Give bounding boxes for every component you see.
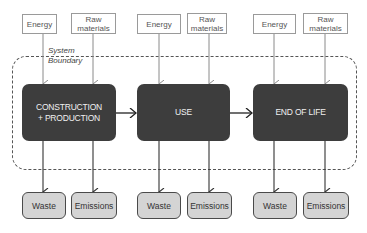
- input-label: Energy: [262, 20, 287, 29]
- input-label-line1: Raw: [85, 15, 101, 24]
- stage-label-line2: + PRODUCTION: [38, 113, 100, 124]
- input-label-line1: Raw: [199, 15, 215, 24]
- stage-label: END OF LIFE: [275, 107, 325, 118]
- output-label: Waste: [263, 201, 287, 211]
- stage-label-line1: CONSTRUCTION: [36, 102, 102, 113]
- stage-end-of-life: END OF LIFE: [253, 84, 348, 141]
- input-raw-materials-construction: Raw materials: [71, 13, 116, 34]
- input-label-line2: materials: [309, 24, 341, 33]
- stage-label: USE: [175, 107, 192, 118]
- input-label: Energy: [27, 20, 52, 29]
- input-label-line2: materials: [77, 24, 109, 33]
- output-label: Waste: [32, 201, 56, 211]
- input-raw-materials-end-of-life: Raw materials: [303, 13, 348, 34]
- stage-use: USE: [137, 84, 230, 141]
- output-waste-end-of-life: Waste: [253, 192, 297, 219]
- output-emissions-end-of-life: Emissions: [303, 192, 349, 219]
- output-label: Emissions: [190, 201, 229, 211]
- output-label: Emissions: [75, 201, 114, 211]
- input-energy-use: Energy: [137, 14, 181, 34]
- output-emissions-construction: Emissions: [71, 192, 117, 219]
- input-raw-materials-use: Raw materials: [187, 13, 227, 34]
- output-waste-construction: Waste: [22, 192, 66, 219]
- input-label-line1: Raw: [317, 15, 333, 24]
- output-label: Waste: [147, 201, 171, 211]
- output-emissions-use: Emissions: [187, 192, 232, 219]
- stage-construction-production: CONSTRUCTION + PRODUCTION: [22, 84, 116, 141]
- output-waste-use: Waste: [137, 192, 181, 219]
- input-energy-end-of-life: Energy: [253, 14, 296, 34]
- input-label-line2: materials: [191, 24, 223, 33]
- output-label: Emissions: [307, 201, 346, 211]
- input-energy-construction: Energy: [22, 14, 57, 34]
- input-label: Energy: [146, 20, 171, 29]
